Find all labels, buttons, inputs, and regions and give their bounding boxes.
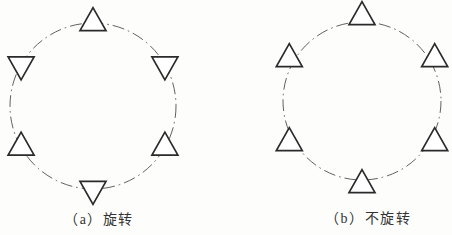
triangle-b-60-up	[422, 44, 448, 67]
triangle-b-240-up	[276, 128, 302, 151]
caption-rotated: （a）旋转	[64, 213, 134, 227]
triangle-a-60-down	[152, 57, 178, 80]
triangle-a-0-up	[80, 8, 106, 31]
triangle-a-120-up	[152, 132, 178, 155]
dash-dot-circle-a	[10, 23, 176, 189]
triangle-b-300-up	[276, 44, 302, 67]
triangle-a-240-up	[8, 132, 34, 155]
diagram-canvas	[0, 0, 452, 235]
triangle-b-120-up	[422, 128, 448, 151]
triangle-b-0-up	[349, 2, 375, 25]
dash-dot-circle-b	[283, 22, 441, 180]
triangle-a-180-down	[80, 181, 106, 204]
caption-not-rotated: （b）不旋转	[325, 212, 411, 226]
triangle-a-300-down	[8, 57, 34, 80]
triangle-b-180-up	[349, 170, 375, 193]
